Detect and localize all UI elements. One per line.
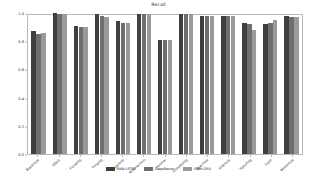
- plot-area: [27, 14, 303, 155]
- bar: [104, 17, 108, 154]
- bar: [179, 14, 183, 154]
- x-tick-mark: [143, 155, 144, 157]
- bar: [226, 16, 230, 154]
- x-tick-mark: [165, 155, 166, 157]
- bar-group: [218, 15, 239, 154]
- bar-group: [28, 15, 49, 154]
- chart-figure: Recall 0.00.20.40.60.81.0 BlackholeDDoSF…: [0, 0, 317, 182]
- bar: [31, 31, 35, 154]
- x-tick-label: Sybil: [265, 158, 274, 166]
- x-tick-label: Misdirection: [128, 158, 146, 175]
- bar: [268, 23, 272, 154]
- x-tick-mark: [37, 155, 38, 157]
- bar: [231, 16, 235, 154]
- chart-legend: RNN-LSTMDeepReconGNN-GRU: [0, 167, 317, 171]
- bar: [189, 14, 193, 154]
- legend-label: GNN-GRU: [194, 167, 211, 171]
- x-tick-mark: [101, 155, 102, 157]
- bar-group: [281, 15, 302, 154]
- bar: [100, 16, 104, 154]
- bar: [74, 26, 78, 154]
- legend-label: DeepRecon: [154, 167, 174, 171]
- bar-group: [70, 15, 91, 154]
- bar: [210, 16, 214, 154]
- legend-item[interactable]: DeepRecon: [144, 167, 175, 171]
- bar: [121, 23, 125, 154]
- bar-group: [176, 15, 197, 154]
- bar: [163, 40, 167, 154]
- bar: [41, 33, 45, 154]
- bars-layer: [28, 15, 302, 154]
- bar: [79, 27, 83, 154]
- chart-title: Recall: [0, 2, 317, 8]
- bar: [57, 14, 61, 154]
- x-tick-mark: [59, 155, 60, 157]
- bar: [147, 14, 151, 154]
- x-tick-mark: [186, 155, 187, 157]
- bar: [263, 24, 267, 154]
- x-tick-label: DDoS: [51, 158, 61, 167]
- bar: [158, 40, 162, 154]
- x-tick-mark: [292, 155, 293, 157]
- x-tick-mark: [250, 155, 251, 157]
- bar: [168, 40, 172, 154]
- bar: [184, 14, 188, 154]
- bar-group: [91, 15, 112, 154]
- bar: [200, 16, 204, 154]
- bar: [205, 16, 209, 154]
- x-tick-mark: [228, 155, 229, 157]
- bar: [142, 14, 146, 154]
- legend-swatch: [183, 167, 192, 170]
- bar-group: [197, 15, 218, 154]
- y-tick-label: 1.0: [18, 12, 24, 16]
- bar-group: [49, 15, 70, 154]
- x-tick-mark: [271, 155, 272, 157]
- y-tick-label: 0.8: [18, 40, 24, 44]
- bar: [83, 27, 87, 154]
- x-tick-mark: [207, 155, 208, 157]
- bar: [137, 14, 141, 154]
- legend-swatch: [144, 167, 153, 170]
- bar: [284, 16, 288, 154]
- bar-group: [239, 15, 260, 154]
- bar: [53, 13, 57, 154]
- legend-swatch: [106, 167, 115, 170]
- bar-group: [154, 15, 175, 154]
- y-tick-label: 0.0: [18, 153, 24, 157]
- bar: [62, 14, 66, 154]
- y-tick-label: 0.4: [18, 97, 24, 101]
- x-tick-mark: [80, 155, 81, 157]
- bar: [36, 34, 40, 154]
- x-tick-mark: [122, 155, 123, 157]
- legend-label: RNN-LSTM: [117, 167, 135, 171]
- x-axis: BlackholeDDoSFloodingForgingGrayholeMisd…: [27, 155, 303, 177]
- bar: [289, 17, 293, 154]
- bar: [252, 30, 256, 154]
- bar: [273, 20, 277, 154]
- bar: [95, 14, 99, 154]
- y-axis: 0.00.20.40.60.81.0: [0, 14, 27, 155]
- bar: [294, 17, 298, 154]
- legend-item[interactable]: GNN-GRU: [183, 167, 211, 171]
- bar: [247, 24, 251, 154]
- bar-group: [112, 15, 133, 154]
- y-tick-label: 0.6: [18, 68, 24, 72]
- bar-group: [260, 15, 281, 154]
- bar-group: [133, 15, 154, 154]
- bar: [221, 16, 225, 154]
- legend-item[interactable]: RNN-LSTM: [106, 167, 135, 171]
- y-tick-label: 0.2: [18, 125, 24, 129]
- bar: [116, 21, 120, 154]
- bar: [242, 23, 246, 154]
- bar: [126, 23, 130, 154]
